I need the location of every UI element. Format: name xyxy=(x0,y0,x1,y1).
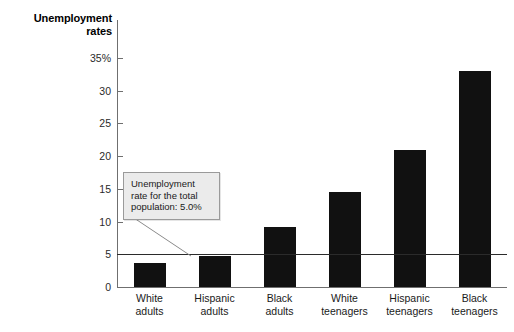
unemployment-rates-bar-chart: Unemployment rates 05101520253035% Unemp… xyxy=(0,0,514,332)
y-tick-label-35: 35% xyxy=(77,53,111,64)
bar-white-teenagers xyxy=(329,192,361,287)
y-tick-label-25: 25 xyxy=(77,118,111,129)
bar-black-adults xyxy=(264,227,296,287)
reference-line-5-percent xyxy=(117,254,507,255)
y-tick-35 xyxy=(117,58,123,59)
y-tick-label-text: 0 xyxy=(77,282,111,293)
x-axis-label-line-1: Black xyxy=(435,292,514,305)
y-tick-label-text: 15 xyxy=(77,184,111,195)
y-tick-label-text: 25 xyxy=(77,118,111,129)
y-tick-label-30: 30 xyxy=(77,86,111,97)
callout-box: Unemployment rate for the total populati… xyxy=(123,172,220,220)
y-tick-label-text: 35% xyxy=(77,53,111,64)
y-tick-label-text: 30 xyxy=(77,86,111,97)
bar-hispanic-teenagers xyxy=(394,150,426,287)
y-tick-20 xyxy=(117,156,123,157)
y-tick-label-5: 5 xyxy=(77,249,111,260)
bar-hispanic-adults xyxy=(199,256,231,287)
y-tick-label-15: 15 xyxy=(77,184,111,195)
y-tick-0 xyxy=(117,287,123,288)
y-tick-label-10: 10 xyxy=(77,217,111,228)
y-tick-label-20: 20 xyxy=(77,151,111,162)
callout-line-2: rate for the total xyxy=(131,190,213,202)
callout-line-3: population: 5.0% xyxy=(131,201,213,213)
chart-title-line-1: Unemployment rates xyxy=(34,12,112,37)
x-axis-line xyxy=(117,287,507,288)
bar-white-adults xyxy=(134,263,166,287)
y-axis-line xyxy=(117,20,118,287)
chart-title: Unemployment rates xyxy=(8,12,112,38)
y-tick-25 xyxy=(117,123,123,124)
callout-line-1: Unemployment xyxy=(131,178,213,190)
x-axis-label-line-2: teenagers xyxy=(435,305,514,318)
y-tick-label-text: 10 xyxy=(77,217,111,228)
y-tick-label-text: 5 xyxy=(77,249,111,260)
y-tick-10 xyxy=(117,222,123,223)
y-tick-label-text: 20 xyxy=(77,151,111,162)
x-axis-label-black-teenagers: Blackteenagers xyxy=(435,292,514,317)
y-tick-30 xyxy=(117,91,123,92)
y-tick-label-0: 0 xyxy=(77,282,111,293)
